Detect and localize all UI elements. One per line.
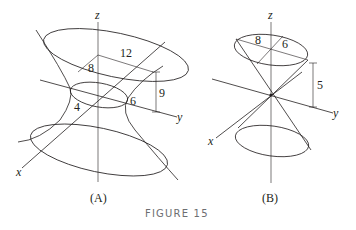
figure-canvas: z y x 12 8 9 4 6 (A) z y x xyxy=(0,0,356,230)
dim-label-6: 6 xyxy=(130,94,136,108)
dim-label-6-b: 6 xyxy=(282,37,288,51)
x-axis-b xyxy=(216,72,302,138)
figure-caption: FIGURE 15 xyxy=(145,208,209,219)
y-axis-b xyxy=(212,79,333,113)
z-axis-label-b: z xyxy=(267,8,273,22)
dim-label-4: 4 xyxy=(74,100,80,114)
y-axis-a xyxy=(40,80,177,117)
dim-label-8-b: 8 xyxy=(255,33,261,47)
right-hyperbola-a xyxy=(125,66,178,180)
x-axis-label-a: x xyxy=(15,165,22,179)
z-axis-label-a: z xyxy=(94,8,100,22)
dim-label-5-b: 5 xyxy=(317,78,323,92)
dim-label-8: 8 xyxy=(88,61,94,75)
panel-a-hyperboloid: z y x 12 8 9 4 6 (A) xyxy=(15,8,193,205)
dim-label-9: 9 xyxy=(159,86,165,100)
cone-generator-1 xyxy=(236,39,311,150)
y-axis-label-b: y xyxy=(332,106,339,120)
bottom-ellipse-a xyxy=(26,114,172,186)
panel-b-caption: (B) xyxy=(262,191,278,205)
origin-point-b xyxy=(269,93,272,96)
dim-label-12: 12 xyxy=(120,46,132,60)
y-axis-label-a: y xyxy=(176,110,183,124)
panel-a-caption: (A) xyxy=(90,191,107,205)
top-ellipse-a xyxy=(39,18,193,92)
cone-generator-2 xyxy=(238,60,308,128)
bottom-ellipse-b xyxy=(233,121,310,161)
x-axis-label-b: x xyxy=(207,134,214,148)
panel-b-cone: z y x 8 6 5 (B) xyxy=(207,8,339,205)
